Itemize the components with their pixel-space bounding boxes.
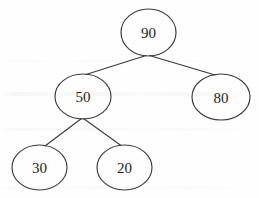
tree-node-30[interactable]: 30 <box>12 145 67 190</box>
tree-edge-50-20 <box>84 119 122 146</box>
tree-edge-90-80 <box>150 56 216 76</box>
tree-diagram-canvas: 90 50 80 30 20 <box>0 0 259 198</box>
tree-node-50[interactable]: 50 <box>55 74 111 119</box>
tree-edge-90-50 <box>86 56 146 75</box>
tree-node-20-label: 20 <box>117 160 132 176</box>
tree-node-80[interactable]: 80 <box>192 74 250 120</box>
binary-tree-figure: 90 50 80 30 20 <box>0 0 259 198</box>
tree-node-50-label: 50 <box>76 89 91 105</box>
tree-node-80-label: 80 <box>214 90 229 106</box>
tree-node-90[interactable]: 90 <box>121 9 176 56</box>
tree-node-20[interactable]: 20 <box>97 145 152 190</box>
tree-edge-50-30 <box>45 119 82 147</box>
tree-node-30-label: 30 <box>32 160 47 176</box>
tree-node-90-label: 90 <box>141 25 156 41</box>
node-layer: 90 50 80 30 20 <box>12 9 250 190</box>
edge-layer <box>45 56 215 147</box>
